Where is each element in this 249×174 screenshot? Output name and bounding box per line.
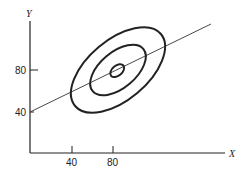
x-axis-label: X <box>228 148 236 159</box>
y-tick-label-40: 40 <box>15 107 27 118</box>
x-tick-label-80: 80 <box>107 157 119 168</box>
inner-contour-ellipse <box>108 62 127 80</box>
middle-contour-ellipse <box>81 35 155 105</box>
x-tick-label-40: 40 <box>66 157 78 168</box>
bivariate-contour-diagram: Y X 80 40 40 80 <box>0 0 249 174</box>
y-tick-label-80: 80 <box>15 65 27 76</box>
outer-contour-ellipse <box>56 11 180 129</box>
y-axis-label: Y <box>26 8 33 19</box>
regression-line <box>30 24 211 112</box>
